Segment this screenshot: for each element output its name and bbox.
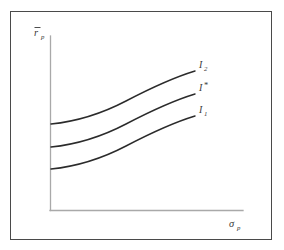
indifference-curve-i1	[51, 116, 195, 169]
curve-label-i-star: I *	[198, 80, 208, 93]
curve-label-i1: I 1	[198, 104, 207, 117]
curve-label-i-star-base: I	[198, 82, 203, 93]
x-axis-label-subscript: p	[236, 224, 241, 231]
indifference-curve-i2	[51, 71, 195, 124]
indifference-curve-figure: r p σ p I 2 I * I 1	[0, 0, 284, 250]
curve-label-i1-base: I	[198, 104, 203, 115]
y-axis-label-subscript: p	[40, 33, 45, 40]
curve-label-i2-base: I	[198, 59, 203, 70]
curve-label-i1-subscript: 1	[204, 110, 207, 117]
x-axis-label-base: σ	[229, 218, 235, 229]
y-axis-label: r p	[34, 27, 45, 40]
y-axis-label-base: r	[34, 27, 39, 38]
curve-label-i2-subscript: 2	[204, 65, 208, 72]
x-axis-label: σ p	[229, 218, 241, 231]
curve-label-i-star-asterisk: *	[204, 80, 208, 90]
plot-area: r p σ p I 2 I * I 1	[0, 0, 284, 250]
curve-label-i2: I 2	[198, 59, 208, 72]
